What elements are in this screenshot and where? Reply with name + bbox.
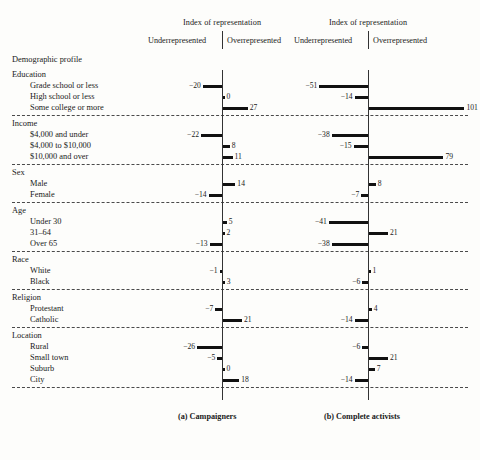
bar-value-label: 7 (377, 365, 381, 373)
group-heading-income: Income (12, 119, 37, 128)
bar-value-label: −20 (187, 82, 201, 90)
group-heading-location: Location (12, 331, 42, 340)
bar (368, 107, 464, 110)
bar-value-label: −14 (339, 376, 353, 384)
bar-value-label: −14 (339, 316, 353, 324)
bar (329, 221, 368, 224)
panel-caption-b: (b) Complete activists (324, 412, 400, 421)
axis-title: Index of representation (278, 18, 458, 27)
group-heading-age: Age (12, 206, 26, 215)
bar-value-label: 2 (227, 229, 231, 237)
bar (222, 145, 230, 148)
bar (355, 96, 368, 99)
group-heading-sex: Sex (12, 168, 25, 177)
bar (355, 379, 368, 382)
bar (368, 156, 443, 159)
bar-value-label: 27 (250, 104, 258, 112)
bar-value-label: −22 (185, 131, 199, 139)
bar (222, 156, 233, 159)
row-label: Suburb (30, 364, 54, 373)
row-label: Some college or more (30, 103, 104, 112)
bar (368, 368, 375, 371)
group-divider (12, 164, 468, 165)
zero-axis-line (368, 70, 369, 400)
bar (197, 346, 222, 349)
bar-value-label: 21 (390, 354, 398, 362)
bar (215, 308, 222, 311)
bar-value-label: −5 (201, 354, 215, 362)
bar-value-label: 3 (227, 278, 231, 286)
group-heading-religion: Religion (12, 293, 41, 302)
row-label: $4,000 and under (30, 130, 88, 139)
bar-value-label: 101 (466, 104, 477, 112)
bar-value-label: −51 (303, 82, 317, 90)
bar-value-label: 21 (244, 316, 252, 324)
bar (222, 183, 235, 186)
bar (368, 357, 388, 360)
row-label: Male (30, 179, 47, 188)
row-label: White (30, 266, 50, 275)
bar-value-label: −6 (346, 278, 360, 286)
row-label: 31–64 (30, 228, 51, 237)
bar (355, 319, 368, 322)
bar (332, 134, 368, 137)
bar (354, 145, 368, 148)
row-label: $10,000 and over (30, 152, 88, 161)
bar-value-label: 79 (445, 153, 453, 161)
axis-header-tick (222, 31, 223, 49)
bar-value-label: −14 (339, 93, 353, 101)
row-label: Protestant (30, 304, 64, 313)
group-divider (12, 115, 468, 116)
bar-value-label: −26 (181, 343, 195, 351)
bar-value-label: −13 (194, 240, 208, 248)
axis-side-label-overrepresented: Overrepresented (227, 36, 281, 45)
bar (319, 85, 368, 88)
bar-value-label: −15 (338, 142, 352, 150)
row-label: Black (30, 277, 50, 286)
figure-canvas: Index of representationUnderrepresentedO… (0, 0, 480, 460)
row-label: Catholic (30, 315, 58, 324)
group-divider (12, 387, 468, 388)
bar-value-label: −38 (316, 131, 330, 139)
bar-value-label: 0 (227, 365, 231, 373)
bar-value-label: 14 (237, 180, 245, 188)
axis-header-tick (368, 31, 369, 49)
row-label: Over 65 (30, 239, 57, 248)
row-label: $4,000 to $10,000 (30, 141, 91, 150)
bar-value-label: −1 (204, 267, 218, 275)
bar-value-label: 18 (241, 376, 249, 384)
bar-value-label: 8 (232, 142, 236, 150)
bar (209, 194, 222, 197)
bar-value-label: −7 (199, 305, 213, 313)
axis-side-label-overrepresented: Overrepresented (373, 36, 427, 45)
row-label: Grade school or less (30, 81, 98, 90)
group-divider (12, 327, 468, 328)
bar-value-label: 0 (227, 93, 231, 101)
row-label: Under 30 (30, 217, 61, 226)
bar-value-label: −6 (346, 343, 360, 351)
bar (222, 107, 248, 110)
bar-value-label: −14 (193, 191, 207, 199)
group-divider (12, 251, 468, 252)
bar (203, 85, 222, 88)
row-label: Rural (30, 342, 49, 351)
bar-value-label: 4 (374, 305, 378, 313)
axis-side-label-underrepresented: Underrepresented (148, 36, 206, 45)
bar (361, 194, 368, 197)
row-label: Small town (30, 353, 68, 362)
demographic-profile-title: Demographic profile (12, 55, 82, 64)
bar (332, 243, 368, 246)
bar (222, 319, 242, 322)
bar-value-label: 1 (373, 267, 377, 275)
bar (210, 243, 222, 246)
group-heading-race: Race (12, 255, 29, 264)
group-divider (12, 202, 468, 203)
group-divider (12, 289, 468, 290)
bar (222, 379, 239, 382)
bar-value-label: 11 (235, 153, 242, 161)
bar (368, 232, 388, 235)
bar (368, 183, 376, 186)
zero-axis-line (222, 70, 223, 400)
row-label: Female (30, 190, 55, 199)
group-heading-education: Education (12, 70, 46, 79)
